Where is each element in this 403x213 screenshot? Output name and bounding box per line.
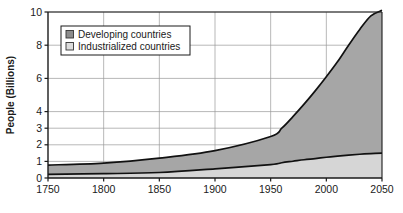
y-tick-label: 1 bbox=[36, 155, 42, 167]
x-tick-label: 1850 bbox=[148, 183, 172, 195]
chart-legend: Developing countries Industrialized coun… bbox=[61, 26, 190, 55]
x-axis-tick-labels: 1750180018501900195020002050 bbox=[36, 183, 394, 195]
y-tick-label: 0 bbox=[36, 172, 42, 184]
legend-swatch-developing bbox=[66, 31, 74, 39]
y-tick-label: 6 bbox=[36, 72, 42, 84]
y-tick-label: 4 bbox=[36, 105, 42, 117]
x-tick-label: 2050 bbox=[370, 183, 394, 195]
y-tick-label: 10 bbox=[30, 6, 42, 18]
x-tick-label: 1950 bbox=[259, 183, 283, 195]
legend-label-industrialized: Industrialized countries bbox=[78, 41, 180, 52]
y-tick-label: 2 bbox=[36, 138, 42, 150]
y-axis-tick-labels: 012346810 bbox=[30, 6, 42, 184]
x-tick-label: 1800 bbox=[92, 183, 116, 195]
y-axis-title: People (Billions) bbox=[5, 56, 16, 134]
legend-swatch-industrialized bbox=[66, 43, 74, 51]
y-tick-label: 8 bbox=[36, 39, 42, 51]
x-tick-label: 2000 bbox=[315, 183, 339, 195]
y-tick-label: 3 bbox=[36, 122, 42, 134]
population-growth-area-chart: 012346810 1750180018501900195020002050 P… bbox=[0, 0, 403, 213]
chart-canvas: 012346810 1750180018501900195020002050 P… bbox=[0, 0, 403, 213]
x-tick-label: 1900 bbox=[203, 183, 227, 195]
legend-label-developing: Developing countries bbox=[78, 29, 171, 40]
x-tick-label: 1750 bbox=[36, 183, 60, 195]
